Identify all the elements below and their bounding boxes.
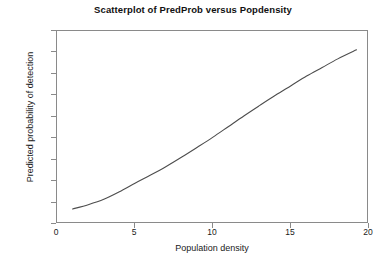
y-axis-label: Predicted probability of detection <box>25 7 35 227</box>
x-tick-label: 0 <box>36 227 76 237</box>
plot-area <box>56 30 368 223</box>
x-tick-label: 20 <box>348 227 386 237</box>
y-tick-mark <box>51 223 56 224</box>
curve-path <box>73 50 357 209</box>
x-axis-label: Population density <box>56 243 368 253</box>
x-tick-label: 5 <box>114 227 154 237</box>
chart-title: Scatterplot of PredProb versus Popdensit… <box>0 4 386 15</box>
x-tick-label: 10 <box>192 227 232 237</box>
chart-container: Scatterplot of PredProb versus Popdensit… <box>0 0 386 267</box>
predprob-curve <box>57 31 369 224</box>
x-tick-label: 15 <box>270 227 310 237</box>
